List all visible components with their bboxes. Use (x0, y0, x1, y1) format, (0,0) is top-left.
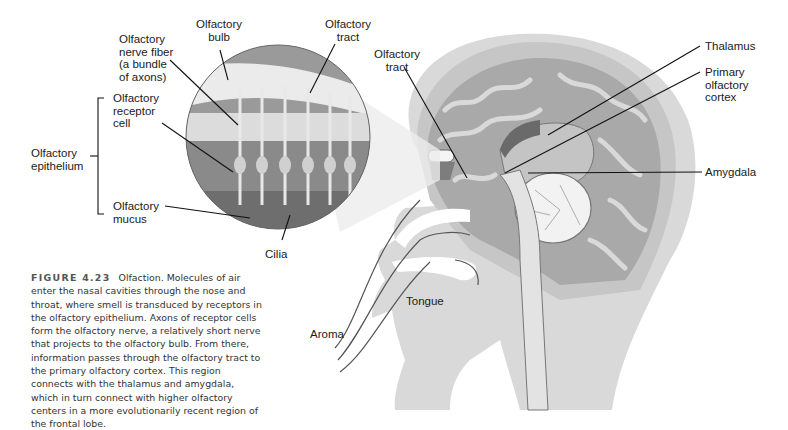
label-primary-olfactory-cortex: Primary olfactory cortex (705, 66, 748, 104)
label-cilia: Cilia (265, 248, 287, 261)
label-thalamus: Thalamus (705, 40, 756, 53)
label-olfactory-nerve-fiber: Olfactory nerve fiber (a bundle of axons… (119, 33, 173, 83)
label-olfactory-epithelium: Olfactory epithelium (31, 147, 83, 172)
label-olfactory-tract-inset: Olfactory tract (325, 18, 371, 43)
figure-caption-text: Olfaction. Molecules of air enter the na… (31, 272, 262, 429)
label-tongue: Tongue (406, 295, 444, 308)
label-olfactory-mucus: Olfactory mucus (113, 200, 159, 225)
label-amygdala: Amygdala (705, 166, 756, 179)
label-olfactory-tract-brain: Olfactory tract (374, 48, 420, 73)
figure-caption: FIGURE 4.23Olfaction. Molecules of air e… (31, 271, 263, 430)
figure-number: FIGURE 4.23 (31, 272, 111, 283)
label-aroma: Aroma (310, 328, 344, 341)
label-olfactory-receptor-cell: Olfactory receptor cell (113, 92, 159, 130)
label-olfactory-bulb: Olfactory bulb (196, 18, 242, 43)
